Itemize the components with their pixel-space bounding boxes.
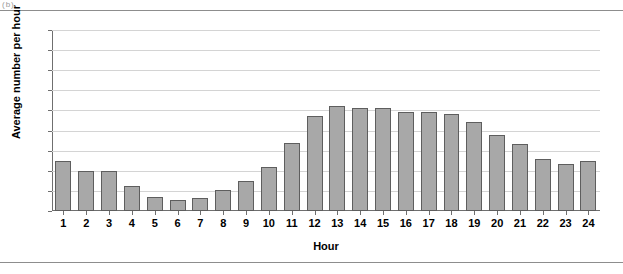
x-axis-tick-label: 3 xyxy=(98,217,121,233)
x-axis-tick-mark xyxy=(474,211,475,215)
top-divider-rule xyxy=(0,10,623,11)
x-axis-tick-label: 4 xyxy=(120,217,143,233)
bar-slot xyxy=(554,30,577,211)
bar-slot xyxy=(280,30,303,211)
x-axis-tick-label: 18 xyxy=(440,217,463,233)
x-axis-tick-label: 5 xyxy=(143,217,166,233)
bar[interactable] xyxy=(78,171,94,211)
x-axis-tick-mark xyxy=(86,211,87,215)
bar[interactable] xyxy=(147,197,163,211)
bar[interactable] xyxy=(170,200,186,211)
bar-slot xyxy=(75,30,98,211)
bar-slot xyxy=(52,30,75,211)
x-axis-tick-label: 15 xyxy=(372,217,395,233)
x-axis-tick-mark xyxy=(155,211,156,215)
x-axis-tick-label: 2 xyxy=(75,217,98,233)
bar-slot xyxy=(98,30,121,211)
bar[interactable] xyxy=(512,144,528,211)
bar-slot xyxy=(303,30,326,211)
bar[interactable] xyxy=(580,161,596,211)
x-axis-tick-mark xyxy=(292,211,293,215)
bar[interactable] xyxy=(307,116,323,211)
x-axis-tick-mark xyxy=(383,211,384,215)
x-axis-tick-mark xyxy=(269,211,270,215)
bar-slot xyxy=(257,30,280,211)
bar-slot xyxy=(486,30,509,211)
bar[interactable] xyxy=(558,164,574,211)
x-axis-tick-label: 7 xyxy=(189,217,212,233)
x-axis-tick-label: 14 xyxy=(349,217,372,233)
x-axis-tick-label: 8 xyxy=(212,217,235,233)
x-axis-tick-label: 1 xyxy=(52,217,75,233)
y-axis-tick-mark xyxy=(48,211,52,212)
bar-slot xyxy=(212,30,235,211)
x-axis-tick-label: 6 xyxy=(166,217,189,233)
bar-slot xyxy=(463,30,486,211)
x-axis-tick-mark xyxy=(588,211,589,215)
x-axis-tick-labels: 123456789101112131415161718192021222324 xyxy=(52,217,600,233)
x-axis-tick-mark xyxy=(337,211,338,215)
bottom-divider-rule xyxy=(0,262,623,263)
bar[interactable] xyxy=(398,112,414,211)
bar-slot xyxy=(235,30,258,211)
x-axis-tick-label: 9 xyxy=(235,217,258,233)
x-axis-tick-mark xyxy=(451,211,452,215)
x-axis-tick-label: 10 xyxy=(257,217,280,233)
x-axis-tick-mark xyxy=(543,211,544,215)
x-axis-tick-label: 12 xyxy=(303,217,326,233)
bar-slot xyxy=(349,30,372,211)
x-axis-tick-label: 21 xyxy=(509,217,532,233)
x-axis-tick-mark xyxy=(132,211,133,215)
x-axis-tick-label: 22 xyxy=(531,217,554,233)
bar[interactable] xyxy=(352,108,368,211)
bar[interactable] xyxy=(284,143,300,211)
bar-slot xyxy=(189,30,212,211)
chart-page: (b) Average number per hour 010203040506… xyxy=(0,0,623,274)
x-axis-tick-label: 16 xyxy=(394,217,417,233)
bar[interactable] xyxy=(444,114,460,211)
x-axis-title: Hour xyxy=(52,240,600,252)
bar-slot xyxy=(417,30,440,211)
bar-chart: Average number per hour 0102030405060708… xyxy=(0,14,623,258)
x-axis-tick-mark xyxy=(497,211,498,215)
x-axis-tick-label: 11 xyxy=(280,217,303,233)
bar-slot xyxy=(120,30,143,211)
bar-slot xyxy=(166,30,189,211)
x-axis-tick-mark xyxy=(520,211,521,215)
x-axis-tick-mark xyxy=(109,211,110,215)
bar-slot xyxy=(440,30,463,211)
x-axis-tick-label: 17 xyxy=(417,217,440,233)
x-axis-tick-mark xyxy=(63,211,64,215)
bar-slot xyxy=(326,30,349,211)
bar[interactable] xyxy=(101,171,117,211)
x-axis-tick-label: 19 xyxy=(463,217,486,233)
x-axis-tick-mark xyxy=(406,211,407,215)
bar[interactable] xyxy=(238,181,254,211)
bar-slot xyxy=(394,30,417,211)
bar[interactable] xyxy=(261,167,277,211)
bar[interactable] xyxy=(421,112,437,211)
x-axis-tick-mark xyxy=(200,211,201,215)
bar-slot xyxy=(509,30,532,211)
x-axis-tick-mark xyxy=(178,211,179,215)
bar[interactable] xyxy=(329,106,345,211)
x-axis-tick-label: 23 xyxy=(554,217,577,233)
x-axis-tick-mark xyxy=(246,211,247,215)
x-axis-tick-mark xyxy=(315,211,316,215)
bar-slot xyxy=(143,30,166,211)
x-axis-tick-mark xyxy=(429,211,430,215)
plot-area: 0102030405060708090 xyxy=(52,30,600,211)
x-axis-tick-label: 20 xyxy=(486,217,509,233)
bar[interactable] xyxy=(215,190,231,211)
bar[interactable] xyxy=(124,186,140,211)
bar[interactable] xyxy=(375,108,391,211)
bar[interactable] xyxy=(466,122,482,211)
bar[interactable] xyxy=(55,161,71,211)
x-axis-tick-mark xyxy=(566,211,567,215)
x-axis-tick-mark xyxy=(223,211,224,215)
bar[interactable] xyxy=(192,198,208,211)
bar[interactable] xyxy=(535,159,551,211)
x-axis-tick-mark xyxy=(360,211,361,215)
bar-slot xyxy=(372,30,395,211)
bar[interactable] xyxy=(489,135,505,211)
